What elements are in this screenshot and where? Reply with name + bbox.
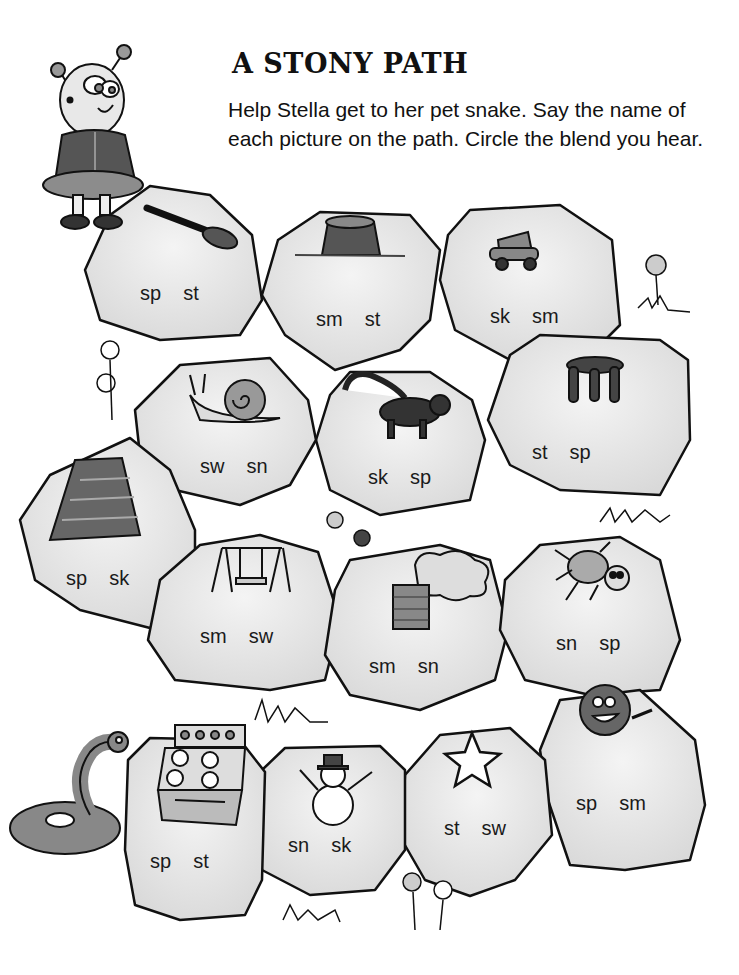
stone-9-choices: smsn	[369, 655, 439, 678]
choice[interactable]: sw	[249, 625, 273, 648]
stone-3-choices: sksm	[490, 305, 559, 328]
choice[interactable]: sn	[288, 834, 309, 857]
choice[interactable]: sn	[246, 455, 267, 478]
stone-7-choices: spsk	[66, 567, 129, 590]
choice[interactable]: st	[532, 441, 548, 464]
stone-5-choices: sksp	[368, 466, 431, 489]
stone-13-choices: snsk	[288, 834, 351, 857]
stone-1-spoon	[85, 186, 262, 340]
snake-character	[10, 732, 128, 854]
stone-2-choices: smst	[316, 308, 380, 331]
stone-6-choices: swsn	[200, 455, 268, 478]
choice[interactable]: sw	[482, 817, 506, 840]
choice[interactable]: sp	[140, 282, 161, 305]
choice[interactable]: sm	[619, 792, 646, 815]
stone-8-choices: smsw	[200, 625, 273, 648]
choice[interactable]: sk	[109, 567, 129, 590]
choice[interactable]: st	[193, 850, 209, 873]
choice[interactable]: sp	[576, 792, 597, 815]
stone-1-choices: spst	[140, 282, 199, 305]
choice[interactable]: sm	[316, 308, 343, 331]
choice[interactable]: sk	[368, 466, 388, 489]
choice[interactable]: sn	[418, 655, 439, 678]
stone-14-choices: spst	[150, 850, 209, 873]
choice[interactable]: sp	[570, 441, 591, 464]
choice[interactable]: sp	[599, 632, 620, 655]
choice[interactable]: sk	[331, 834, 351, 857]
choice[interactable]: st	[365, 308, 381, 331]
stool-picture	[567, 357, 623, 402]
choice[interactable]: sp	[410, 466, 431, 489]
choice[interactable]: sm	[369, 655, 396, 678]
choice[interactable]: sm	[532, 305, 559, 328]
choice[interactable]: sp	[150, 850, 171, 873]
choice[interactable]: sm	[200, 625, 227, 648]
stone-11-choices: spsm	[576, 792, 646, 815]
choice[interactable]: sk	[490, 305, 510, 328]
stone-12-choices: stsw	[444, 817, 506, 840]
stone-4-choices: stsp	[532, 441, 591, 464]
choice[interactable]: sn	[556, 632, 577, 655]
stone-10-choices: snsp	[556, 632, 620, 655]
choice[interactable]: sw	[200, 455, 224, 478]
choice[interactable]: sp	[66, 567, 87, 590]
choice[interactable]: st	[444, 817, 460, 840]
choice[interactable]: st	[183, 282, 199, 305]
